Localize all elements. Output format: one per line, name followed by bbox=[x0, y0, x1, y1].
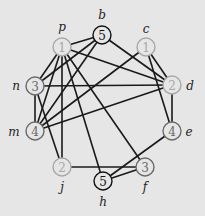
node-f: 3f bbox=[136, 158, 154, 194]
node-e: 4e bbox=[163, 122, 193, 140]
node-value: 2 bbox=[168, 79, 176, 93]
node-name: p bbox=[58, 20, 66, 34]
node-j: 2j bbox=[53, 158, 71, 194]
node-value: 4 bbox=[168, 125, 176, 139]
node-name: f bbox=[142, 180, 150, 194]
edges-group bbox=[35, 35, 172, 181]
node-name: e bbox=[185, 125, 192, 139]
node-name: c bbox=[143, 22, 150, 36]
node-value: 1 bbox=[58, 41, 66, 55]
node-name: j bbox=[57, 180, 64, 194]
edge-b-d bbox=[102, 35, 172, 85]
node-value: 3 bbox=[141, 161, 149, 175]
graph-diagram: 1p5b1c3n2d4m4e2j3f5h bbox=[0, 0, 205, 216]
node-value: 3 bbox=[31, 80, 39, 94]
node-name: d bbox=[186, 79, 194, 93]
node-p: 1p bbox=[53, 20, 71, 56]
edge-e-h bbox=[103, 131, 172, 181]
node-value: 1 bbox=[142, 41, 150, 55]
node-name: b bbox=[98, 8, 106, 22]
node-d: 2d bbox=[163, 76, 194, 94]
node-value: 5 bbox=[98, 29, 106, 43]
node-name: m bbox=[8, 125, 19, 139]
edge-n-d bbox=[35, 85, 172, 86]
node-value: 2 bbox=[58, 161, 66, 175]
node-name: h bbox=[99, 195, 107, 209]
node-n: 3n bbox=[12, 77, 44, 95]
node-value: 4 bbox=[31, 125, 39, 139]
node-b: 5b bbox=[93, 8, 111, 44]
edge-p-f bbox=[62, 47, 145, 167]
node-h: 5h bbox=[94, 172, 112, 209]
node-m: 4m bbox=[8, 122, 44, 140]
edge-m-d bbox=[35, 85, 172, 131]
edge-c-m bbox=[35, 47, 146, 131]
node-value: 5 bbox=[99, 175, 107, 189]
node-name: n bbox=[12, 79, 20, 93]
node-c: 1c bbox=[137, 22, 155, 56]
